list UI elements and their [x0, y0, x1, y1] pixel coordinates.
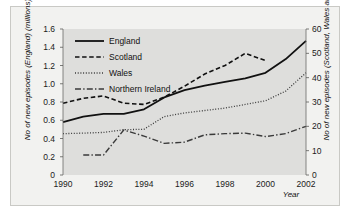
y-tick-label-right: 10	[312, 147, 340, 156]
legend-label: England	[109, 36, 140, 46]
x-tick-label: 2002	[286, 180, 326, 189]
legend-label: Wales	[109, 68, 132, 78]
legend-swatch-dashed	[75, 54, 105, 60]
series-line-northern-ireland	[83, 126, 306, 155]
legend-swatch-dotted	[75, 70, 105, 76]
legend-label: Northern Ireland	[109, 84, 170, 94]
legend-swatch-dashdot	[75, 86, 105, 92]
series-line-wales	[63, 73, 306, 134]
y-axis-left-title: No of new episodes (England) (millions)	[23, 0, 32, 145]
y-tick-label-right: 0	[312, 171, 340, 180]
x-tick-label: 2000	[246, 180, 286, 189]
axis-lines	[60, 29, 309, 175]
chart-canvas	[11, 7, 341, 207]
x-tick-label: 1994	[124, 180, 164, 189]
x-tick-label: 1996	[165, 180, 205, 189]
x-tick-label: 1992	[84, 180, 124, 189]
legend-swatch-solid	[75, 38, 105, 44]
x-tick-label: 1998	[205, 180, 245, 189]
x-tick-label: 1990	[43, 180, 83, 189]
y-tick-label-left: 0	[27, 171, 55, 180]
y-axis-right-title: No of new episodes (Scotland, Wales and …	[322, 0, 331, 141]
x-axis-title: Year	[261, 190, 321, 199]
legend-label: Scotland	[109, 52, 142, 62]
y-tick-label-left: 0.2	[27, 153, 55, 162]
chart-figure: 00.20.40.60.81.01.21.41.6 0102030405060 …	[10, 6, 340, 206]
